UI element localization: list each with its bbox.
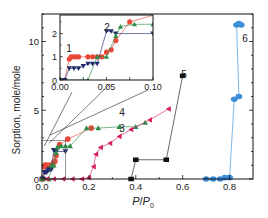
- series-label-3: 3: [119, 123, 125, 134]
- inset-y-tick-label: 0: [52, 76, 57, 86]
- inset-x-tick-label: 0.05: [98, 82, 116, 92]
- data-point-marker: [163, 158, 169, 162]
- series-label-4: 4: [119, 107, 125, 118]
- inset-data-point-marker: [127, 19, 132, 24]
- inset-series-label-2: 2: [104, 22, 110, 33]
- x-tick-label: 0.4: [129, 181, 142, 192]
- data-point-marker: [166, 106, 171, 112]
- data-point-marker: [128, 127, 133, 133]
- y-tick-label: 0: [34, 174, 39, 185]
- x-tick-label: 0.2: [82, 181, 95, 192]
- x-tick-label: 0.8: [223, 181, 236, 192]
- inset-data-point-marker: [76, 54, 81, 59]
- data-point-marker: [98, 145, 103, 151]
- data-point-marker: [236, 94, 243, 100]
- inset-y-tick-label: 2: [52, 29, 57, 39]
- data-point-marker: [238, 22, 245, 28]
- series-label-5: 5: [181, 69, 187, 80]
- sorption-isotherm-chart: 0.00.20.40.60.805103456 0.000.050.100121…: [0, 0, 268, 218]
- x-tick-label: 0.6: [176, 181, 189, 192]
- x-axis-label: P/P0: [132, 195, 154, 209]
- inset-data-point-marker: [90, 54, 95, 59]
- y-axis-label: Sorption, mole/mole: [11, 65, 22, 154]
- data-point-marker: [147, 117, 152, 123]
- data-point-marker: [107, 140, 112, 146]
- inset-x-tick-label: 0.10: [144, 82, 162, 92]
- series-4: [44, 106, 171, 182]
- zoom-connector-line: [49, 84, 110, 143]
- data-point-marker: [65, 136, 71, 142]
- inset-data-point-marker: [85, 54, 90, 59]
- data-point-marker: [91, 164, 96, 170]
- data-point-marker: [133, 158, 139, 162]
- y-tick-label: 10: [28, 36, 39, 47]
- y-tick-label: 5: [34, 105, 39, 116]
- series-label-6: 6: [242, 33, 248, 44]
- inset-y-tick-label: 1: [52, 52, 57, 62]
- inset-series-label-1: 1: [66, 43, 72, 54]
- series-6: [203, 21, 245, 182]
